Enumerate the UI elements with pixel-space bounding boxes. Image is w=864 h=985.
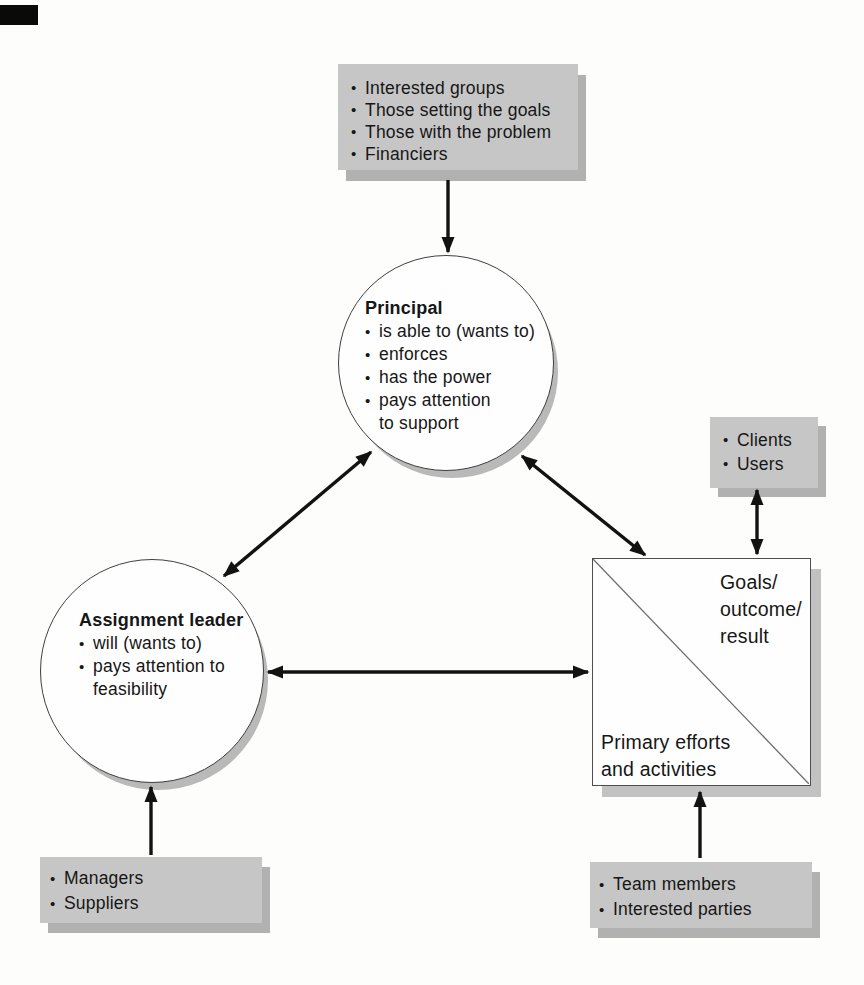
list-item: •pays attention to feasibility: [79, 655, 243, 701]
box-managers-suppliers: •Managers •Suppliers: [40, 857, 262, 923]
diagram-canvas: •Interested groups •Those setting the go…: [0, 0, 864, 985]
node-title: Principal: [365, 297, 535, 320]
list-item: •Suppliers: [50, 891, 262, 916]
bullet-icon: •: [351, 99, 365, 121]
list-item: •will (wants to): [79, 632, 243, 655]
bullet-icon: •: [50, 891, 64, 916]
list-item: •Users: [723, 452, 818, 476]
bullet-icon: •: [50, 866, 64, 891]
box-clients-users: •Clients •Users: [710, 417, 818, 488]
box-team-members: •Team members •Interested parties: [590, 862, 812, 928]
bullet-icon: •: [723, 428, 737, 452]
list-item: •enforces: [365, 343, 535, 366]
list-item: •Those setting the goals: [351, 99, 578, 121]
bullet-icon: •: [79, 632, 93, 655]
bullet-icon: •: [599, 872, 613, 897]
principal-label: Principal •is able to (wants to) •enforc…: [365, 297, 535, 435]
goals-label: Goals/ outcome/ result: [720, 569, 802, 650]
bullet-icon: •: [79, 655, 93, 678]
bullet-icon: •: [365, 343, 379, 366]
primary-efforts-label: Primary efforts and activities: [601, 729, 730, 783]
bullet-icon: •: [351, 143, 365, 165]
list-item: •is able to (wants to): [365, 320, 535, 343]
list-item: •Those with the problem: [351, 121, 578, 143]
list-item: •Team members: [599, 872, 812, 897]
arrow-principal-square-bidirectional: [522, 456, 645, 555]
bullet-icon: •: [599, 897, 613, 922]
arrow-principal-leader-bidirectional: [224, 452, 371, 576]
bullet-icon: •: [365, 320, 379, 343]
list-item: •Interested parties: [599, 897, 812, 922]
node-title: Assignment leader: [79, 609, 243, 632]
list-item: •has the power: [365, 366, 535, 389]
list-item: •pays attention to support: [365, 389, 535, 435]
bullet-icon: •: [723, 452, 737, 476]
bullet-icon: •: [351, 121, 365, 143]
bullet-icon: •: [365, 366, 379, 389]
bullet-icon: •: [351, 77, 365, 99]
bullet-icon: •: [365, 389, 379, 412]
list-item: •Interested groups: [351, 77, 578, 99]
list-item: •Financiers: [351, 143, 578, 165]
scan-artifact: [0, 5, 38, 25]
box-interested-groups: •Interested groups •Those setting the go…: [338, 64, 578, 170]
assignment-leader-label: Assignment leader •will (wants to) •pays…: [79, 609, 243, 701]
list-item: •Clients: [723, 428, 818, 452]
list-item: •Managers: [50, 866, 262, 891]
